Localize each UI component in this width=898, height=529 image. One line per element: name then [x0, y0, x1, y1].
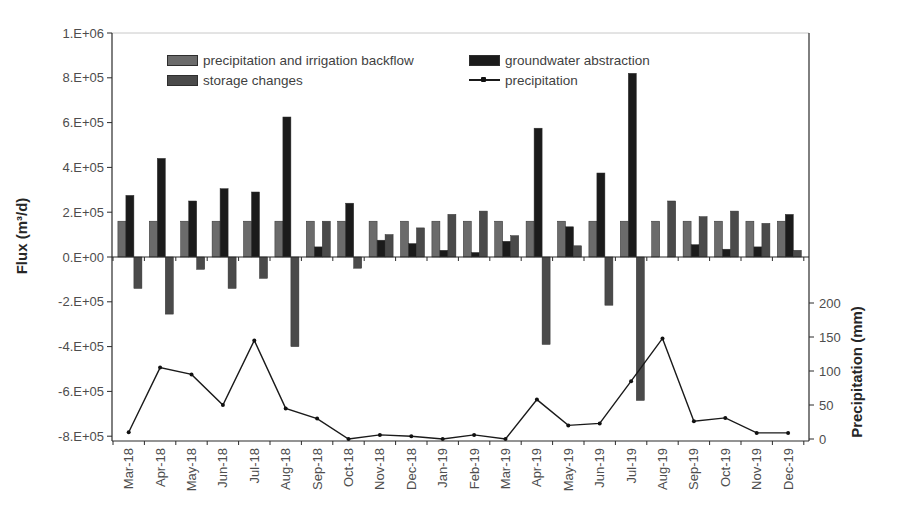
- month-tick-label: Dec-18: [404, 448, 419, 490]
- precipitation-point: [535, 398, 539, 402]
- bar-precipitation-and-irrigation-backflow-Mar-19: [495, 221, 503, 257]
- bar-groundwater-abstraction-Dec-18: [409, 244, 417, 257]
- precipitation-line: [129, 338, 788, 439]
- bar-storage-changes-Aug-19: [668, 201, 676, 257]
- bar-storage-changes-Nov-18: [385, 235, 393, 257]
- bar-groundwater-abstraction-Apr-18: [157, 158, 165, 257]
- precip-tick-label: 50: [819, 398, 833, 413]
- precipitation-point: [315, 417, 319, 421]
- precipitation-point: [221, 403, 225, 407]
- month-tick-label: May-18: [184, 448, 199, 491]
- bar-precipitation-and-irrigation-backflow-Mar-18: [118, 221, 126, 257]
- flux-tick-label: -8.E+05: [58, 429, 104, 444]
- precip-tick-label: 150: [819, 330, 841, 345]
- bar-storage-changes-Nov-19: [762, 223, 770, 257]
- bar-groundwater-abstraction-Jun-19: [597, 173, 605, 257]
- month-tick-label: Jun-18: [215, 448, 230, 488]
- precipitation-point: [692, 419, 696, 423]
- flux-tick-label: 1.E+06: [62, 26, 104, 41]
- month-tick-label: Aug-19: [655, 448, 670, 490]
- bar-precipitation-and-irrigation-backflow-Aug-18: [275, 221, 283, 257]
- month-tick-label: Sep-18: [310, 448, 325, 490]
- bar-storage-changes-Sep-19: [699, 217, 707, 257]
- precipitation-point: [504, 437, 508, 441]
- month-tick-label: Apr-18: [153, 448, 168, 487]
- month-tick-label: Dec-19: [781, 448, 796, 490]
- bar-precipitation-and-irrigation-backflow-Sep-18: [306, 221, 314, 257]
- bar-precipitation-and-irrigation-backflow-Jun-19: [589, 221, 597, 257]
- bar-precipitation-and-irrigation-backflow-Jul-19: [620, 221, 628, 257]
- bar-groundwater-abstraction-Feb-19: [471, 253, 479, 258]
- bar-storage-changes-Jul-19: [636, 257, 644, 400]
- bar-storage-changes-Aug-18: [291, 257, 299, 347]
- flux-tick-label: -2.E+05: [58, 294, 104, 309]
- month-tick-label: Nov-19: [749, 448, 764, 490]
- month-tick-label: Mar-18: [121, 448, 136, 489]
- precipitation-point: [472, 433, 476, 437]
- bar-precipitation-and-irrigation-backflow-Aug-19: [652, 221, 660, 257]
- bar-precipitation-and-irrigation-backflow-May-18: [181, 221, 189, 257]
- bar-groundwater-abstraction-Jan-19: [440, 250, 448, 257]
- bar-storage-changes-Jul-18: [260, 257, 268, 278]
- bar-groundwater-abstraction-Aug-18: [283, 117, 291, 257]
- flux-tick-label: -6.E+05: [58, 384, 104, 399]
- flux-tick-label: 4.E+05: [62, 160, 104, 175]
- precipitation-point: [378, 433, 382, 437]
- bar-precipitation-and-irrigation-backflow-Nov-18: [369, 221, 377, 257]
- month-tick-label: Jan-19: [435, 448, 450, 488]
- bar-storage-changes-Sep-18: [322, 221, 330, 257]
- bar-storage-changes-Jun-19: [605, 257, 613, 305]
- flux-tick-label: 8.E+05: [62, 70, 104, 85]
- bar-precipitation-and-irrigation-backflow-Apr-19: [526, 221, 534, 257]
- bar-groundwater-abstraction-Oct-18: [346, 203, 354, 257]
- bar-precipitation-and-irrigation-backflow-Jul-18: [244, 221, 252, 257]
- precipitation-point: [284, 406, 288, 410]
- bar-storage-changes-Oct-19: [731, 211, 739, 257]
- bar-storage-changes-Feb-19: [479, 211, 487, 257]
- month-tick-label: Apr-19: [529, 448, 544, 487]
- bar-precipitation-and-irrigation-backflow-Nov-19: [746, 221, 754, 257]
- bar-storage-changes-Dec-19: [793, 250, 801, 257]
- bar-groundwater-abstraction-Jun-18: [220, 189, 228, 257]
- precipitation-point: [409, 434, 413, 438]
- precipitation-point: [127, 430, 131, 434]
- chart-canvas: Flux (m³/d) Precipitation (mm) precipita…: [0, 0, 898, 529]
- bar-storage-changes-Jan-19: [448, 214, 456, 257]
- precip-tick-label: 100: [819, 364, 841, 379]
- bar-storage-changes-May-19: [574, 246, 582, 257]
- bar-storage-changes-May-18: [197, 257, 205, 269]
- precipitation-point: [723, 416, 727, 420]
- precip-tick-label: 0: [819, 432, 826, 447]
- precip-tick-label: 200: [819, 296, 841, 311]
- month-tick-label: Aug-18: [278, 448, 293, 490]
- precipitation-point: [566, 423, 570, 427]
- flux-tick-label: 2.E+05: [62, 205, 104, 220]
- month-tick-label: Jun-19: [592, 448, 607, 488]
- month-tick-label: May-19: [561, 448, 576, 491]
- bar-groundwater-abstraction-Nov-19: [754, 247, 762, 257]
- month-tick-label: Jul-18: [247, 448, 262, 483]
- flux-tick-label: 6.E+05: [62, 115, 104, 130]
- precipitation-point: [786, 431, 790, 435]
- bar-groundwater-abstraction-Nov-18: [377, 240, 385, 257]
- bar-groundwater-abstraction-May-18: [189, 201, 197, 257]
- bar-precipitation-and-irrigation-backflow-Jun-18: [212, 221, 220, 257]
- month-tick-label: Feb-19: [467, 448, 482, 489]
- bar-groundwater-abstraction-Mar-19: [503, 241, 511, 257]
- bar-storage-changes-Mar-19: [511, 236, 519, 257]
- bar-precipitation-and-irrigation-backflow-Sep-19: [683, 221, 691, 257]
- precipitation-point: [252, 338, 256, 342]
- bar-groundwater-abstraction-May-19: [566, 227, 574, 257]
- flux-tick-label: 0.E+00: [62, 250, 104, 265]
- precipitation-point: [190, 372, 194, 376]
- bar-precipitation-and-irrigation-backflow-May-19: [558, 221, 566, 257]
- bar-storage-changes-Mar-18: [134, 257, 142, 288]
- precipitation-point: [755, 431, 759, 435]
- bar-storage-changes-Jun-18: [228, 257, 236, 288]
- bar-precipitation-and-irrigation-backflow-Oct-18: [338, 221, 346, 257]
- bar-storage-changes-Apr-18: [165, 257, 173, 314]
- flux-tick-label: -4.E+05: [58, 339, 104, 354]
- bar-precipitation-and-irrigation-backflow-Jan-19: [432, 221, 440, 257]
- bar-storage-changes-Apr-19: [542, 257, 550, 344]
- bar-groundwater-abstraction-Oct-19: [723, 249, 731, 257]
